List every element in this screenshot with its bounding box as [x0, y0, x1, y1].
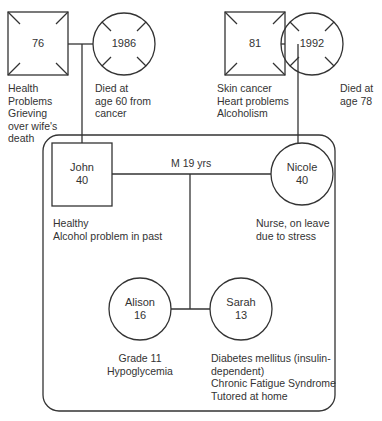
note-line: age 78 — [340, 95, 380, 108]
note-line: Nurse, on leave — [256, 217, 330, 230]
john-label: John 40 — [52, 161, 112, 187]
note-line: death — [8, 132, 57, 145]
nicole-label: Nicole 40 — [271, 161, 333, 187]
note-line: Hypoglycemia — [100, 365, 180, 378]
nicole-notes: Nurse, on leave due to stress — [256, 217, 330, 242]
note-line: Died at — [340, 82, 380, 95]
maternal-grandmother-year: 1992 — [281, 37, 343, 50]
marriage-duration-label: M 19 yrs — [171, 157, 211, 170]
alison-age: 16 — [109, 309, 171, 322]
john-notes: Healthy Alcohol problem in past — [53, 217, 162, 242]
note-line: Problems — [8, 95, 57, 108]
note-line: dependent) — [211, 365, 336, 378]
alison-label: Alison 16 — [109, 296, 171, 322]
note-line: over wife's — [8, 120, 57, 133]
maternal-grandfather-notes: Skin cancer Heart problems Alcoholism — [217, 82, 289, 120]
note-line: Alcohol problem in past — [53, 230, 162, 243]
note-line: Tutored at home — [211, 390, 336, 403]
nicole-name: Nicole — [271, 161, 333, 174]
note-line: Healthy — [53, 217, 162, 230]
sarah-notes: Diabetes mellitus (insulin- dependent) C… — [211, 352, 336, 402]
sarah-label: Sarah 13 — [210, 296, 272, 322]
paternal-grandmother-year: 1986 — [93, 37, 155, 50]
alison-name: Alison — [109, 296, 171, 309]
note-line: Diabetes mellitus (insulin- — [211, 352, 336, 365]
sarah-age: 13 — [210, 309, 272, 322]
note-line: Grade 11 — [100, 352, 180, 365]
paternal-grandmother-notes: Died at age 60 from cancer — [95, 82, 151, 120]
note-line: Health — [8, 82, 57, 95]
note-line: due to stress — [256, 230, 330, 243]
john-age: 40 — [52, 174, 112, 187]
nicole-age: 40 — [271, 174, 333, 187]
note-line: Alcoholism — [217, 107, 289, 120]
note-line: cancer — [95, 107, 151, 120]
note-line: Heart problems — [217, 95, 289, 108]
alison-notes: Grade 11 Hypoglycemia — [100, 352, 180, 377]
note-line: Skin cancer — [217, 82, 289, 95]
paternal-grandfather-notes: Health Problems Grieving over wife's dea… — [8, 82, 57, 145]
note-line: age 60 from — [95, 95, 151, 108]
maternal-grandfather-age: 81 — [225, 37, 285, 50]
note-line: Grieving — [8, 107, 57, 120]
john-name: John — [52, 161, 112, 174]
note-line: Died at — [95, 82, 151, 95]
paternal-grandfather-age: 76 — [8, 37, 68, 50]
note-line: Chronic Fatigue Syndrome — [211, 377, 336, 390]
sarah-name: Sarah — [210, 296, 272, 309]
maternal-grandmother-notes: Died at age 78 — [340, 82, 380, 107]
